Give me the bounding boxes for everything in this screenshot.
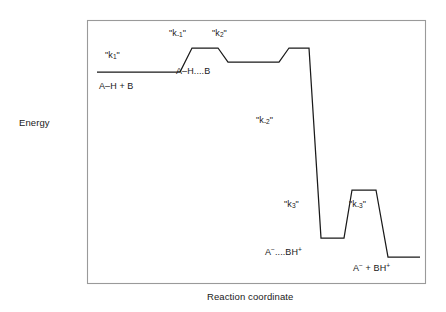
km1-prefix: "k [169,28,177,38]
km1-suffix: " [183,28,186,38]
k2-prefix: "k [212,28,220,38]
rate-constant-k1-label: "k1" [105,50,120,60]
rate-constant-k-minus-3-label: "k-3" [349,199,366,209]
ionpair-mid: ....BH [275,247,298,257]
k3-prefix: "k [284,199,292,209]
rate-constant-k2-label: "k2" [212,28,227,38]
k1-prefix: "k [105,50,113,60]
k3-suffix: " [296,199,299,209]
km3-suffix: " [363,199,366,209]
energy-profile-curve [97,48,420,257]
km2-prefix: "k [256,115,264,125]
species-label-products: A− + BH+ [353,262,390,273]
species-label-hydrogen-bonded-complex: A–H....B [176,66,210,76]
km2-suffix: " [270,115,273,125]
species-label-reactants: A–H + B [99,81,133,91]
products-cation-charge: + [386,262,390,269]
species-label-ion-pair: A−....BH+ [265,246,302,257]
ionpair-cation-charge: + [298,246,302,253]
rate-constant-k-minus-1-label: "k-1" [169,28,186,38]
k2-suffix: " [224,28,227,38]
rate-constant-k3-label: "k3" [284,199,299,209]
products-mid: + BH [363,263,386,273]
km3-prefix: "k [349,199,357,209]
rate-constant-k-minus-2-label: "k-2" [256,115,273,125]
k1-suffix: " [117,50,120,60]
reaction-coordinate-diagram: Energy Reaction coordinate "k1" "k-1" "k… [0,0,446,312]
y-axis-label: Energy [19,117,50,128]
x-axis-label: Reaction coordinate [207,291,293,302]
plot-frame [88,21,426,284]
